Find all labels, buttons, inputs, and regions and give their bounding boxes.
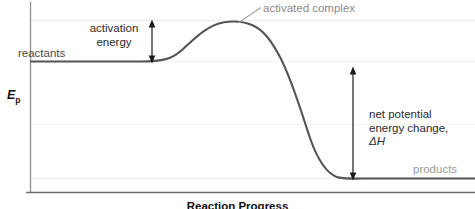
diagram-canvas bbox=[0, 0, 475, 209]
y-axis-label: Ep bbox=[7, 88, 21, 105]
net-energy-change-arrow bbox=[350, 67, 357, 181]
energy-profile-diagram: activation energy reactants activated co… bbox=[0, 0, 475, 209]
products-label: products bbox=[413, 163, 457, 177]
activation-energy-arrow bbox=[149, 20, 156, 64]
net-energy-change-line1: net potential bbox=[369, 108, 432, 120]
net-energy-change-label: net potential energy change, ΔH bbox=[369, 108, 469, 149]
net-energy-change-line2: energy change, bbox=[369, 122, 448, 134]
reactants-label: reactants bbox=[18, 47, 65, 61]
activated-complex-label: activated complex bbox=[263, 2, 355, 16]
activation-energy-label: activation energy bbox=[80, 22, 148, 49]
x-axis-label: Reaction Progress bbox=[0, 200, 475, 209]
y-axis-label-subscript: p bbox=[15, 95, 20, 105]
activation-energy-label-line1: activation bbox=[90, 22, 139, 34]
delta-h-symbol: ΔH bbox=[369, 135, 385, 147]
activation-energy-label-line2: energy bbox=[96, 36, 131, 48]
